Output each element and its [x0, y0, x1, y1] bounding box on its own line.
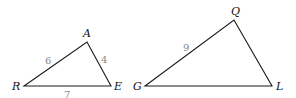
vertex-label-A: A — [82, 27, 91, 40]
triangles-svg: A R E 6 4 7 Q G L 9 — [0, 0, 296, 98]
side-label-AE: 4 — [101, 54, 107, 65]
vertex-label-E: E — [113, 80, 122, 93]
vertex-label-G: G — [133, 80, 142, 93]
vertex-label-L: L — [275, 80, 283, 93]
triangle-RAE: A R E 6 4 7 — [11, 27, 122, 98]
triangle-GQL: Q G L 9 — [133, 5, 283, 93]
side-label-RE: 7 — [64, 89, 70, 98]
diagram-canvas: A R E 6 4 7 Q G L 9 — [0, 0, 296, 98]
vertex-label-R: R — [11, 80, 20, 93]
triangle-GQL-shape — [145, 20, 272, 86]
triangle-RAE-shape — [24, 42, 111, 86]
side-label-RA: 6 — [45, 55, 51, 66]
side-label-GQ: 9 — [183, 42, 189, 53]
vertex-label-Q: Q — [231, 5, 240, 18]
